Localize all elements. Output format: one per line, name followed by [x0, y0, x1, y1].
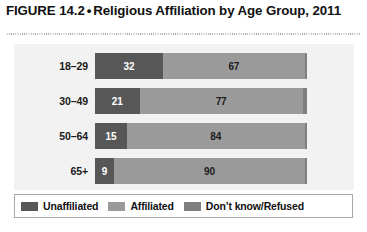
bar-row: 18–293267	[14, 53, 354, 79]
bar-segment-value: 21	[112, 96, 123, 107]
figure-container: FIGURE 14.2•Religious Affiliation by Age…	[0, 0, 367, 232]
legend-item[interactable]: Don’t know/Refused	[184, 200, 304, 212]
legend-item[interactable]: Unaffiliated	[21, 200, 98, 212]
bar-segment-value: 67	[228, 61, 239, 72]
bar-segment-value: 90	[204, 166, 215, 177]
figure-number: FIGURE 14.2	[6, 3, 85, 18]
bar-track: 2177	[95, 88, 307, 114]
bar-track: 990	[95, 158, 307, 184]
bar-category-label: 18–29	[14, 53, 88, 79]
bar-segment-affiliated: 84	[127, 123, 305, 149]
bar-category-label: 50–64	[14, 123, 88, 149]
legend-item-label: Unaffiliated	[43, 200, 98, 212]
legend-item-label: Don’t know/Refused	[206, 200, 304, 212]
bar-category-label: 30–49	[14, 88, 88, 114]
legend-swatch-dontknow	[184, 202, 201, 211]
bar-segment-value: 15	[105, 131, 116, 142]
title-bullet-separator: •	[85, 3, 94, 18]
chart-plot-area: 18–29326730–49217750–64158465+990	[14, 44, 354, 190]
bar-track: 1584	[95, 123, 307, 149]
bar-segment-affiliated: 90	[114, 158, 305, 184]
bar-row: 30–492177	[14, 88, 354, 114]
bar-segment-unaffiliated: 32	[95, 53, 163, 79]
figure-title-block: FIGURE 14.2•Religious Affiliation by Age…	[6, 1, 358, 19]
bar-segment-value: 84	[210, 131, 221, 142]
bar-segment-dontknow	[305, 53, 307, 79]
legend-swatch-affiliated	[108, 202, 125, 211]
bar-segment-unaffiliated: 15	[95, 123, 127, 149]
bar-segment-affiliated: 67	[163, 53, 305, 79]
bar-category-label: 65+	[14, 158, 88, 184]
bar-segment-value: 9	[102, 166, 107, 177]
legend-item-label: Affiliated	[130, 200, 173, 212]
bar-segment-dontknow	[305, 123, 307, 149]
bar-segment-unaffiliated: 21	[95, 88, 140, 114]
bar-segment-unaffiliated: 9	[95, 158, 114, 184]
bar-segment-value: 32	[123, 61, 134, 72]
bar-row: 65+990	[14, 158, 354, 184]
bar-track: 3267	[95, 53, 307, 79]
bar-segment-dontknow	[303, 88, 307, 114]
bar-row: 50–641584	[14, 123, 354, 149]
figure-title: Religious Affiliation by Age Group, 2011	[93, 3, 341, 18]
bar-segment-value: 77	[216, 96, 227, 107]
legend-swatch-unaffiliated	[21, 202, 38, 211]
bar-segment-affiliated: 77	[140, 88, 303, 114]
legend-item[interactable]: Affiliated	[108, 200, 173, 212]
bar-segment-dontknow	[305, 158, 307, 184]
chart-legend: UnaffiliatedAffiliatedDon’t know/Refused	[14, 194, 353, 218]
title-divider	[6, 33, 361, 35]
